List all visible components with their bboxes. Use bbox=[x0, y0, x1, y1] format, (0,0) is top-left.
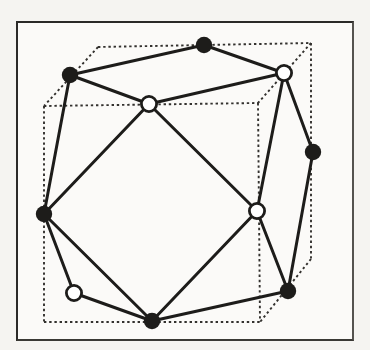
vertex-filled-node bbox=[36, 206, 52, 222]
vertex-open-node bbox=[141, 96, 156, 111]
polyhedron-edge bbox=[44, 214, 152, 321]
polyhedron-edge bbox=[149, 73, 284, 104]
polyhedron-in-cube-diagram bbox=[0, 0, 370, 350]
polyhedron-edge bbox=[70, 75, 149, 104]
vertex-open-node bbox=[276, 65, 291, 80]
polyhedron-edge bbox=[44, 75, 70, 214]
polyhedron-edge bbox=[257, 211, 288, 291]
polyhedron-edge bbox=[288, 152, 313, 291]
vertex-filled-node bbox=[62, 67, 78, 83]
vertex-filled-node bbox=[196, 37, 212, 53]
vertex-filled-node bbox=[305, 144, 321, 160]
polyhedron-edge bbox=[74, 293, 152, 321]
vertex-filled-node bbox=[280, 283, 296, 299]
polyhedron-edge bbox=[284, 73, 313, 152]
vertex-open-node bbox=[66, 285, 81, 300]
polyhedron-edge bbox=[70, 45, 204, 75]
polyhedron-edge bbox=[204, 45, 284, 73]
scanned-figure-page bbox=[0, 0, 370, 350]
vertex-filled-node bbox=[144, 313, 160, 329]
polyhedron-edge bbox=[152, 211, 257, 321]
polyhedron-edge bbox=[44, 214, 74, 293]
polyhedron-edge bbox=[152, 291, 288, 321]
polyhedron-edge bbox=[149, 104, 257, 211]
polyhedron-edge bbox=[44, 104, 149, 214]
polyhedron-edge bbox=[257, 73, 284, 211]
vertex-open-node bbox=[249, 203, 264, 218]
